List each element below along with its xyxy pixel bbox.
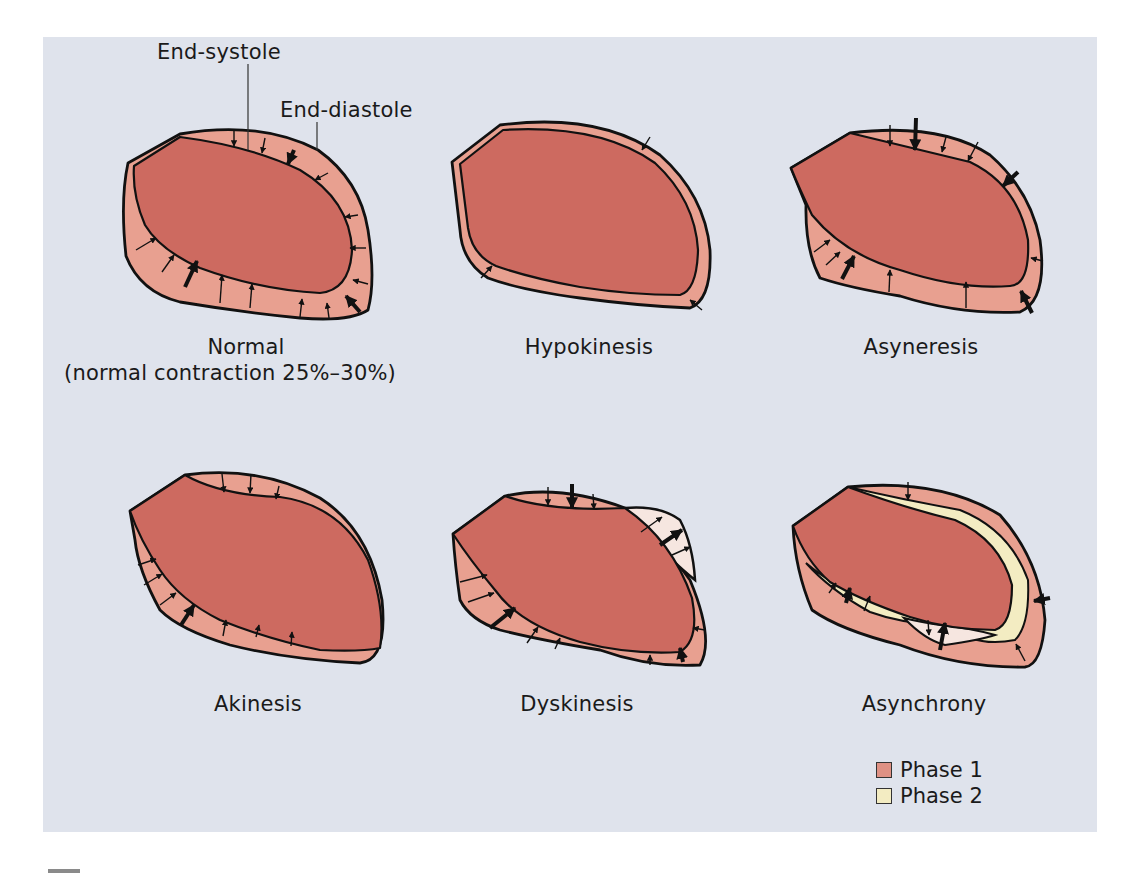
panel-title-hypokinesis: Hypokinesis bbox=[525, 335, 654, 359]
panel-title-normal: Normal bbox=[207, 335, 284, 359]
legend-swatch-phase-2 bbox=[876, 788, 892, 804]
contraction-arrow-large bbox=[915, 118, 916, 150]
legend-label-phase-1: Phase 1 bbox=[900, 758, 983, 782]
contraction-arrow bbox=[889, 270, 890, 292]
contraction-arrow bbox=[291, 632, 292, 646]
heart-akinesis bbox=[130, 473, 383, 663]
legend-item-phase-1: Phase 1 bbox=[876, 758, 983, 782]
legend-label-phase-2: Phase 2 bbox=[900, 784, 983, 808]
heart-dyskinesis bbox=[453, 484, 706, 665]
panel-title-akinesis: Akinesis bbox=[214, 692, 302, 716]
ventricular-wall-motion-diagram bbox=[0, 0, 1128, 873]
heart-asyneresis bbox=[791, 118, 1043, 313]
contraction-arrow bbox=[593, 494, 594, 509]
end-systole-label: End-systole bbox=[157, 40, 281, 64]
panel-title-asyneresis: Asyneresis bbox=[864, 335, 979, 359]
legend-swatch-phase-1 bbox=[876, 762, 892, 778]
heart-hypokinesis bbox=[452, 122, 710, 310]
contraction-arrow bbox=[928, 620, 929, 635]
legend-item-phase-2: Phase 2 bbox=[876, 784, 983, 808]
panel-subtitle-normal: (normal contraction 25%–30%) bbox=[64, 361, 396, 385]
panel-title-dyskinesis: Dyskinesis bbox=[520, 692, 633, 716]
panel-title-asynchrony: Asynchrony bbox=[862, 692, 987, 716]
page-corner-mark bbox=[48, 869, 80, 873]
heart-asynchrony bbox=[793, 482, 1050, 667]
end-systole-outline bbox=[130, 475, 382, 651]
contraction-arrow bbox=[250, 474, 251, 493]
end-diastole-label: End-diastole bbox=[280, 98, 413, 122]
